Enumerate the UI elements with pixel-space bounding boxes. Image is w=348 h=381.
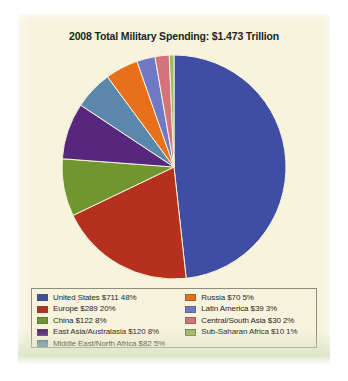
legend-item[interactable]: East Asia/Australasia $120 8%: [37, 327, 185, 338]
legend-item[interactable]: Middle East/North Africa $82 5%: [37, 338, 185, 349]
legend-item-label: Latin America $39 3%: [201, 304, 277, 314]
swatch-sub-saharan-africa: [185, 329, 196, 336]
legend-item[interactable]: Russia $70 5%: [185, 292, 312, 303]
legend-item[interactable]: Latin America $39 3%: [185, 304, 312, 315]
pie-slice: [174, 55, 286, 278]
legend-item[interactable]: Central/South Asia $30 2%: [185, 315, 312, 326]
legend-item-label: Central/South Asia $30 2%: [201, 316, 294, 326]
legend-item[interactable]: China $122 8%: [37, 315, 185, 326]
legend-item-label: United States $711 48%: [53, 293, 137, 303]
legend-item-label: Sub-Saharan Africa $10 1%: [201, 327, 297, 337]
swatch-russia: [185, 294, 196, 301]
legend-item[interactable]: United States $711 48%: [37, 292, 185, 303]
legend-column-left: United States $711 48%Europe $289 20%Chi…: [37, 292, 185, 350]
chart-title: 2008 Total Military Spending: $1.473 Tri…: [0, 30, 348, 42]
legend-item-label: Russia $70 5%: [201, 293, 254, 303]
swatch-united-states: [37, 294, 48, 301]
swatch-europe: [37, 306, 48, 313]
swatch-middle-east-north-africa: [37, 340, 48, 347]
legend-item[interactable]: Europe $289 20%: [37, 304, 185, 315]
legend-item[interactable]: Sub-Saharan Africa $10 1%: [185, 327, 312, 338]
pie-chart-figure: 2008 Total Military Spending: $1.473 Tri…: [0, 0, 348, 381]
swatch-latin-america: [185, 306, 196, 313]
swatch-east-asia-australasia: [37, 329, 48, 336]
legend-item-label: Middle East/North Africa $82 5%: [53, 339, 165, 349]
legend-item-label: China $122 8%: [53, 316, 106, 326]
legend-item-label: Europe $289 20%: [53, 304, 116, 314]
swatch-central-south-asia: [185, 317, 196, 324]
pie-chart-svg: [61, 54, 287, 280]
chart-legend: United States $711 48%Europe $289 20%Chi…: [31, 288, 317, 348]
swatch-china: [37, 317, 48, 324]
pie-chart: [61, 54, 287, 280]
legend-column-right: Russia $70 5%Latin America $39 3%Central…: [185, 292, 312, 338]
legend-item-label: East Asia/Australasia $120 8%: [53, 327, 159, 337]
